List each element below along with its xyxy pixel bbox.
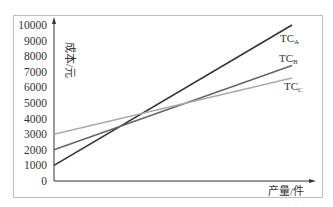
x-axis-label: 产量/件 [268,184,304,197]
axes [52,17,316,183]
y-tick-label: 7000 [24,66,47,78]
series-labels: TCATCBTCC [279,32,303,94]
x-axis-arrow-icon [309,179,316,183]
series-line-tc_a [54,25,292,165]
y-tick-label: 2000 [24,144,47,156]
series-label-tc_a: TCA [280,32,299,46]
y-tick-label: 6000 [24,81,47,93]
series-label-tc_b: TCB [279,52,298,66]
series-line-tc_b [54,66,292,150]
y-tick-label: 9000 [24,35,47,47]
y-tick-label: 4000 [24,113,47,125]
y-tick-label: 8000 [24,50,47,62]
y-axis-label: 成本/元 [64,42,77,78]
line-chart: 0100020003000400050006000700080009000100… [0,0,333,207]
y-tick-label: 1000 [24,159,47,171]
series-lines [54,25,292,165]
y-axis-arrow-icon [52,17,56,24]
series-line-tc_c [54,78,292,134]
y-tick-label: 5000 [24,97,47,109]
y-tick-label: 10000 [18,19,47,31]
series-label-tc_c: TCC [284,80,303,94]
y-tick-label: 3000 [24,128,47,140]
y-axis-ticks: 0100020003000400050006000700080009000100… [18,19,47,187]
y-tick-label: 0 [41,175,47,187]
